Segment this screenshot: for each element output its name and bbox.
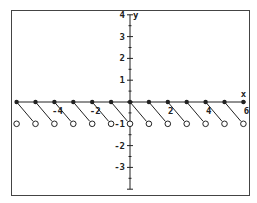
open-point xyxy=(165,121,171,127)
x-tick-label: 2 xyxy=(168,106,173,116)
open-point xyxy=(222,121,228,127)
y-tick-label: 1 xyxy=(120,75,125,85)
y-tick-label: 3 xyxy=(120,32,125,42)
segment xyxy=(73,102,89,121)
closed-point xyxy=(203,100,207,104)
x-tick-label: 4 xyxy=(206,106,212,116)
closed-point xyxy=(71,100,75,104)
segment xyxy=(149,102,165,121)
chart: -4-2246-3-2-11234xy xyxy=(0,0,257,203)
open-point xyxy=(33,121,39,127)
segment xyxy=(130,102,146,121)
open-point xyxy=(14,121,20,127)
open-point xyxy=(52,121,58,127)
closed-point xyxy=(241,100,245,104)
closed-point xyxy=(166,100,170,104)
x-tick-label: -4 xyxy=(52,106,63,116)
open-point xyxy=(127,121,133,127)
y-tick-label: 4 xyxy=(120,10,126,20)
open-point xyxy=(203,121,209,127)
closed-point xyxy=(33,100,37,104)
open-point xyxy=(89,121,95,127)
closed-point xyxy=(90,100,94,104)
closed-point xyxy=(128,100,132,104)
closed-point xyxy=(109,100,113,104)
x-tick-label: -2 xyxy=(90,106,101,116)
y-axis-label: y xyxy=(133,10,139,20)
closed-point xyxy=(147,100,151,104)
open-point xyxy=(184,121,190,127)
open-point xyxy=(108,121,114,127)
segment xyxy=(17,102,33,121)
closed-point xyxy=(52,100,56,104)
segment xyxy=(225,102,241,121)
y-tick-label: 2 xyxy=(120,53,125,63)
y-tick-label: -2 xyxy=(114,141,125,151)
x-tick-label: 6 xyxy=(244,106,249,116)
open-point xyxy=(146,121,152,127)
y-tick-label: -1 xyxy=(114,119,125,129)
closed-point xyxy=(222,100,226,104)
segment xyxy=(36,102,52,121)
labels: -4-2246-3-2-11234xy xyxy=(52,10,249,173)
y-tick-label: -3 xyxy=(114,162,125,172)
segment xyxy=(187,102,203,121)
closed-point xyxy=(14,100,18,104)
x-axis-label: x xyxy=(241,89,247,99)
open-point xyxy=(71,121,77,127)
closed-point xyxy=(185,100,189,104)
open-point xyxy=(241,121,247,127)
